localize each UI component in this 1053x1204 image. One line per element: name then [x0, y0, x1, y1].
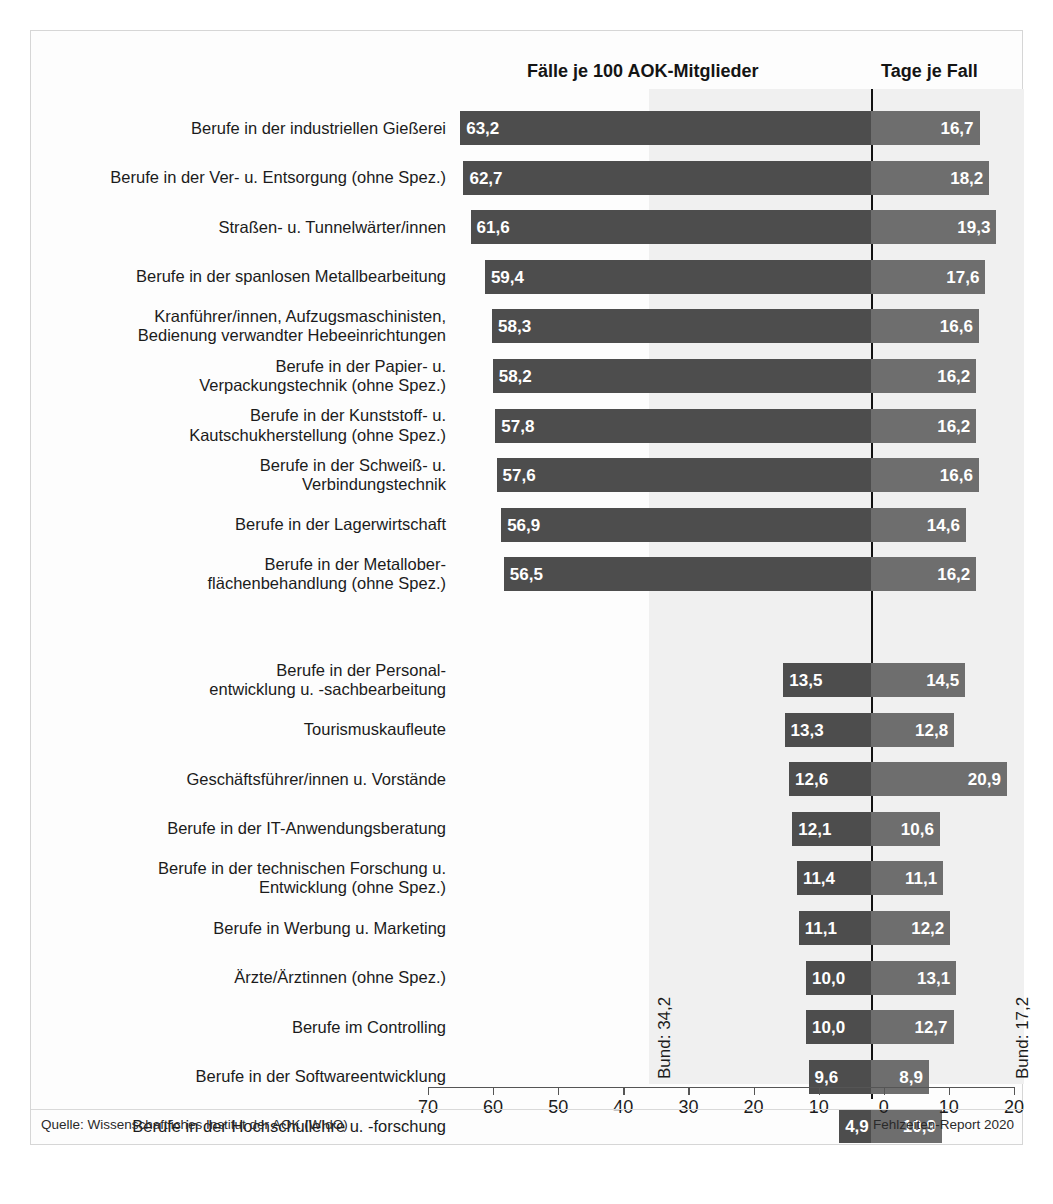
bar-tage: 16,7	[871, 111, 980, 145]
bar-value-faelle: 56,9	[507, 516, 540, 533]
axis-tick	[949, 1087, 950, 1095]
axis-line	[428, 1087, 1014, 1088]
bar-faelle: 13,5	[783, 663, 871, 697]
category-label: Berufe in der spanlosen Metallbearbeitun…	[26, 267, 446, 286]
bar-faelle: 12,1	[792, 812, 871, 846]
bar-tage: 18,2	[871, 161, 989, 195]
bar-value-tage: 14,5	[926, 672, 959, 689]
axis-tick	[623, 1087, 624, 1095]
axis-tick	[819, 1087, 820, 1095]
footer-divider	[31, 1109, 1024, 1110]
bar-value-faelle: 61,6	[477, 219, 510, 236]
bar-faelle: 56,9	[501, 508, 871, 542]
bar-tage: 12,8	[871, 713, 954, 747]
axis-tick	[558, 1087, 559, 1095]
category-label: Berufe in der technischen Forschung u. E…	[26, 859, 446, 898]
bar-value-tage: 16,2	[937, 368, 970, 385]
category-label: Berufe in der Personal- entwicklung u. -…	[26, 661, 446, 700]
bar-value-tage: 12,2	[911, 920, 944, 937]
bar-faelle: 57,6	[497, 458, 871, 492]
category-label: Berufe in der IT-Anwendungsberatung	[26, 819, 446, 838]
bar-value-tage: 16,6	[940, 318, 973, 335]
column-header-faelle: Fälle je 100 AOK-Mitglieder	[527, 61, 758, 82]
axis-tick	[1014, 1087, 1015, 1095]
bar-value-tage: 16,2	[937, 566, 970, 583]
category-label: Tourismuskaufleute	[26, 720, 446, 739]
bar-value-tage: 13,1	[917, 969, 950, 986]
axis-tick	[688, 1087, 689, 1095]
bar-faelle: 10,0	[806, 1010, 871, 1044]
bar-tage: 11,1	[871, 861, 943, 895]
category-label: Kranführer/innen, Aufzugsmaschinisten, B…	[26, 307, 446, 346]
bar-faelle: 11,4	[797, 861, 871, 895]
bar-value-tage: 8,9	[899, 1068, 923, 1085]
category-label: Berufe in der Papier- u. Verpackungstech…	[26, 357, 446, 396]
bar-value-tage: 17,6	[946, 268, 979, 285]
bar-tage: 12,2	[871, 911, 950, 945]
bar-value-faelle: 10,0	[812, 1019, 845, 1036]
column-header-tage: Tage je Fall	[881, 61, 978, 82]
bar-tage: 16,2	[871, 557, 976, 591]
bar-faelle: 57,8	[495, 409, 871, 443]
bar-value-faelle: 57,6	[503, 467, 536, 484]
category-label: Straßen- u. Tunnelwärter/innen	[26, 218, 446, 237]
source-text: Quelle: Wissenschaftliches Institut der …	[41, 1117, 348, 1132]
bar-faelle: 63,2	[460, 111, 871, 145]
bar-value-faelle: 12,1	[798, 820, 831, 837]
bar-value-faelle: 59,4	[491, 268, 524, 285]
bar-value-faelle: 56,5	[510, 566, 543, 583]
bar-value-faelle: 10,0	[812, 969, 845, 986]
bar-value-tage: 11,1	[905, 870, 937, 887]
bar-tage: 16,2	[871, 359, 976, 393]
bar-value-tage: 19,3	[957, 219, 990, 236]
bar-tage: 10,6	[871, 812, 940, 846]
axis-tick	[884, 1087, 885, 1095]
axis-tick	[754, 1087, 755, 1095]
chart-frame: Fälle je 100 AOK-Mitglieder Tage je Fall…	[30, 30, 1023, 1145]
bar-value-faelle: 62,7	[469, 169, 502, 186]
bar-faelle: 13,3	[785, 713, 871, 747]
bar-faelle: 11,1	[799, 911, 871, 945]
bar-faelle: 56,5	[504, 557, 871, 591]
bar-tage: 14,5	[871, 663, 965, 697]
bar-value-tage: 16,6	[940, 467, 973, 484]
bar-value-faelle: 12,6	[795, 771, 828, 788]
bar-faelle: 12,6	[789, 762, 871, 796]
category-label: Berufe in der industriellen Gießerei	[26, 119, 446, 138]
category-label: Berufe in der Softwareentwicklung	[26, 1067, 446, 1086]
bar-value-tage: 20,9	[968, 771, 1001, 788]
bar-value-tage: 10,6	[901, 820, 934, 837]
category-label: Berufe in der Kunststoff- u. Kautschukhe…	[26, 406, 446, 445]
category-label: Berufe in der Ver- u. Entsorgung (ohne S…	[26, 168, 446, 187]
category-label: Berufe in der Metallober- flächenbehandl…	[26, 555, 446, 594]
bar-value-faelle: 13,5	[789, 672, 822, 689]
bar-faelle: 58,2	[493, 359, 871, 393]
bar-value-tage: 16,2	[937, 417, 970, 434]
bar-value-faelle: 58,3	[498, 318, 531, 335]
bar-tage: 17,6	[871, 260, 985, 294]
category-label: Berufe im Controlling	[26, 1018, 446, 1037]
category-label: Berufe in Werbung u. Marketing	[26, 919, 446, 938]
bar-tage: 12,7	[871, 1010, 954, 1044]
bar-tage: 16,6	[871, 309, 979, 343]
bar-value-tage: 12,8	[915, 721, 948, 738]
bar-value-tage: 12,7	[914, 1019, 947, 1036]
bar-value-faelle: 11,1	[805, 920, 837, 937]
bar-tage: 16,6	[871, 458, 979, 492]
bund-left-label: Bund: 34,2	[655, 997, 675, 1079]
bar-value-faelle: 58,2	[499, 368, 532, 385]
bar-tage: 16,2	[871, 409, 976, 443]
chart-footer: Quelle: Wissenschaftliches Institut der …	[31, 1109, 1024, 1139]
bar-faelle: 10,0	[806, 961, 871, 995]
category-label: Berufe in der Lagerwirtschaft	[26, 515, 446, 534]
bar-faelle: 58,3	[492, 309, 871, 343]
bar-value-faelle: 13,3	[791, 721, 824, 738]
bar-tage: 13,1	[871, 961, 956, 995]
bar-value-faelle: 9,6	[815, 1068, 839, 1085]
bar-faelle: 59,4	[485, 260, 871, 294]
category-label: Ärzte/Ärztinnen (ohne Spez.)	[26, 968, 446, 987]
bar-value-faelle: 63,2	[466, 120, 499, 137]
report-text: Fehlzeiten-Report 2020	[873, 1117, 1014, 1132]
bar-faelle: 62,7	[463, 161, 871, 195]
bar-value-tage: 16,7	[940, 120, 973, 137]
